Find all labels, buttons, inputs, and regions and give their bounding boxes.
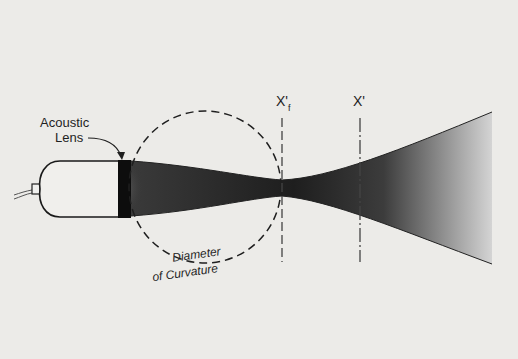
lens-label-line2: Lens: [55, 130, 84, 145]
lens-label-line1: Acoustic: [40, 115, 90, 130]
plane-label: X': [353, 93, 365, 109]
focal-plane-label: X'f: [276, 93, 291, 113]
acoustic-beam-diagram: Acoustic Lens X'f X' Diameter of Curvatu…: [0, 0, 518, 359]
acoustic-beam: [131, 112, 492, 264]
cable-icon: [14, 184, 40, 199]
lens-pointer-arrow: [88, 138, 121, 156]
curvature-label-line2: of Curvature: [151, 261, 219, 284]
transducer-housing: [40, 161, 118, 217]
